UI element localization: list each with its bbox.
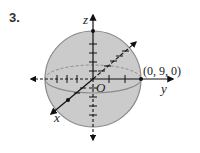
point-label: (0, 9, 0) [143, 65, 181, 77]
origin-label: O [96, 81, 105, 94]
x-axis-label: x [54, 111, 60, 124]
point-top [91, 29, 95, 33]
point-front [66, 98, 70, 102]
figure: 3. [0, 0, 200, 153]
z-axis-label: z [83, 13, 88, 26]
y-axis-label: y [161, 82, 167, 95]
